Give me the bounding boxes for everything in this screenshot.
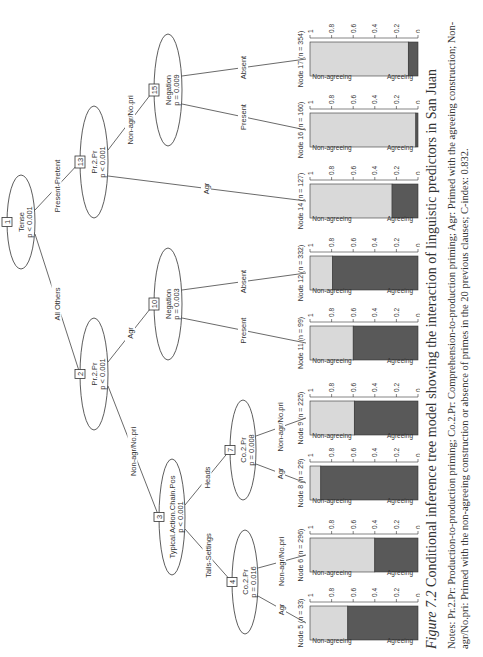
bar-agreeing: [353, 326, 418, 360]
node-p-value: p = 0.003: [172, 288, 181, 320]
edge-label: Agr: [277, 603, 286, 615]
y-tick-label: 1: [307, 100, 314, 104]
bar-non-agreeing: [310, 256, 333, 290]
bar-non-agreeing: [310, 326, 353, 360]
node-p-value: p = 0.008: [247, 434, 256, 466]
edge-label: Non-agr/No.pri: [276, 402, 285, 452]
y-tick-label: 0.8: [328, 95, 335, 104]
y-tick-label: 0: [415, 525, 421, 529]
y-tick-label: 1: [307, 243, 314, 247]
node-p-value: p < 0.001: [98, 358, 107, 390]
node-p-value: p = 0.009: [172, 74, 181, 106]
y-tick-label: 0.8: [328, 238, 335, 247]
legend-agreeing: Agreeing: [387, 497, 413, 505]
node-p-value: p < 0.001: [98, 146, 107, 178]
figure-title: Figure 7.2 Conditional inference tree mo…: [424, 9, 440, 649]
terminal-node-label: Node 9 (n = 225): [297, 392, 305, 445]
legend-non-agreeing: Non-agreeing: [312, 215, 352, 223]
y-tick-label: 0.4: [371, 166, 378, 175]
legend-agreeing: Agreeing: [387, 287, 413, 295]
bar-agreeing: [333, 256, 418, 290]
figure-caption: Figure 7.2 Conditional inference tree mo…: [424, 9, 471, 649]
edge-label: Present-Pretent: [53, 159, 62, 212]
y-tick-label: 0.8: [328, 383, 335, 392]
y-tick-label: 0: [415, 313, 421, 317]
y-tick-label: 1: [307, 388, 314, 392]
edge-label: Present: [239, 317, 248, 344]
legend-non-agreeing: Non-agreeing: [312, 144, 352, 152]
y-tick-label: 0.2: [393, 448, 400, 457]
legend-non-agreeing: Non-agreeing: [312, 287, 352, 295]
y-tick-label: 0.6: [350, 166, 357, 175]
y-tick-label: 0.8: [328, 166, 335, 175]
bar-non-agreeing: [310, 113, 416, 147]
edge-label: Absent: [239, 269, 248, 293]
y-tick-label: 0.8: [328, 448, 335, 457]
edge-label: Heads: [203, 466, 212, 488]
y-tick-label: 0: [415, 243, 421, 247]
figure-title-text: Conditional inference tree model showing…: [424, 69, 439, 587]
y-tick-label: 0: [415, 593, 421, 597]
terminal-node-label: Node 8 (n = 29): [297, 459, 305, 508]
y-tick-label: 1: [307, 29, 314, 33]
bar-non-agreeing: [310, 538, 375, 572]
y-tick-label: 0.4: [371, 383, 378, 392]
y-tick-label: 1: [307, 525, 314, 529]
terminal-node-label: Node 6 (n = 296): [297, 529, 305, 582]
y-tick-label: 0: [415, 453, 421, 457]
y-tick-label: 1: [307, 593, 314, 597]
terminal-node-label: Node 5 (n = 33): [297, 599, 305, 648]
y-tick-label: 0.4: [371, 520, 378, 529]
edge-label: Agr: [202, 182, 211, 194]
bar-agreeing: [416, 113, 418, 147]
inference-tree: All OthersPresent-PretentNon-agr/No.priA…: [0, 0, 420, 657]
figure-notes: Notes: Pr.2.Pr: Production-to-production…: [446, 9, 471, 649]
y-tick-label: 0.6: [350, 308, 357, 317]
edge-label: Tails-Settings: [204, 533, 213, 578]
y-tick-label: 0: [415, 171, 421, 175]
legend-non-agreeing: Non-agreeing: [312, 357, 352, 365]
y-tick-label: 1: [307, 313, 314, 317]
terminal-node-label: Node 17 (n = 354): [297, 31, 305, 88]
terminal-node-label: Node 11 (n = 99): [297, 317, 305, 369]
edge-label: Non-agr/No.pri: [129, 427, 138, 477]
y-tick-label: 0: [415, 388, 421, 392]
y-tick-label: 0.8: [328, 588, 335, 597]
legend-non-agreeing: Non-agreeing: [312, 637, 352, 645]
bar-non-agreeing: [310, 466, 321, 500]
y-tick-label: 0.4: [371, 588, 378, 597]
y-tick-label: 0.4: [371, 448, 378, 457]
y-tick-label: 0.4: [371, 238, 378, 247]
y-tick-label: 0.4: [371, 95, 378, 104]
legend-agreeing: Agreeing: [387, 357, 413, 365]
edge-label: Agr: [276, 467, 285, 479]
edge-label: Non-agr/No.pri: [277, 537, 286, 587]
y-tick-label: 0.2: [393, 24, 400, 33]
y-tick-label: 0.6: [350, 448, 357, 457]
legend-agreeing: Agreeing: [387, 432, 413, 440]
bar-agreeing: [392, 184, 418, 218]
y-tick-label: 0: [415, 29, 421, 33]
edge-label: All Others: [53, 287, 62, 320]
bar-non-agreeing: [310, 42, 408, 76]
node-id: 1: [3, 220, 12, 224]
legend-non-agreeing: Non-agreeing: [312, 497, 352, 505]
y-tick-label: 0.6: [350, 383, 357, 392]
y-tick-label: 0.2: [393, 308, 400, 317]
node-p-value: p < 0.001: [176, 501, 185, 533]
legend-agreeing: Agreeing: [387, 569, 413, 577]
bar-non-agreeing: [310, 184, 392, 218]
legend-agreeing: Agreeing: [387, 637, 413, 645]
y-tick-label: 1: [307, 453, 314, 457]
y-tick-label: 0.6: [350, 588, 357, 597]
y-tick-label: 0.4: [371, 308, 378, 317]
y-tick-label: 0.2: [393, 238, 400, 247]
terminal-node-label: Node 12 (n = 332): [297, 245, 305, 302]
y-tick-label: 0.2: [393, 383, 400, 392]
edge-label: Non-agr/No.pri: [126, 95, 135, 145]
bar-non-agreeing: [310, 401, 354, 435]
y-tick-label: 0.8: [328, 24, 335, 33]
legend-agreeing: Agreeing: [387, 144, 413, 152]
node-id: 10: [150, 300, 159, 308]
legend-non-agreeing: Non-agreeing: [312, 432, 352, 440]
